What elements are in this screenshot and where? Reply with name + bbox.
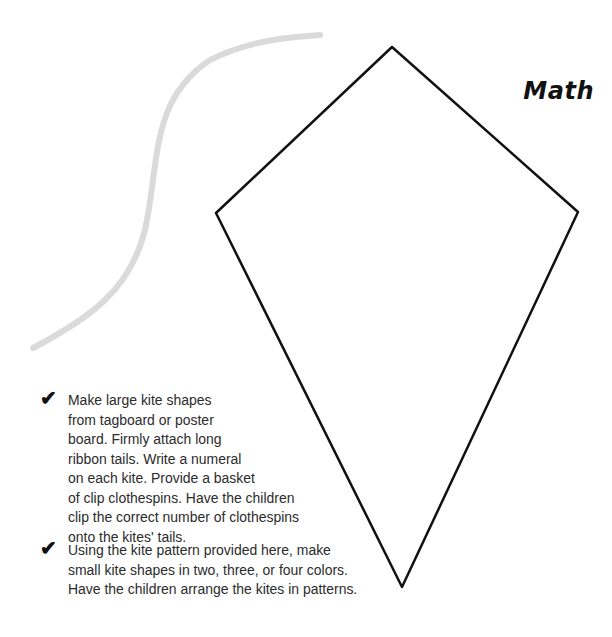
kite-tail-curve [33,35,320,348]
activity-item: ✔ Make large kite shapes from tagboard o… [40,390,325,546]
activity-text: Make large kite shapes from tagboard or … [68,390,299,546]
checkmark-icon: ✔ [40,539,57,559]
activity-text: Using the kite pattern provided here, ma… [68,540,357,599]
checkmark-icon: ✔ [40,389,57,409]
activity-item: ✔ Using the kite pattern provided here, … [40,540,389,599]
page-title: Math [523,77,594,105]
